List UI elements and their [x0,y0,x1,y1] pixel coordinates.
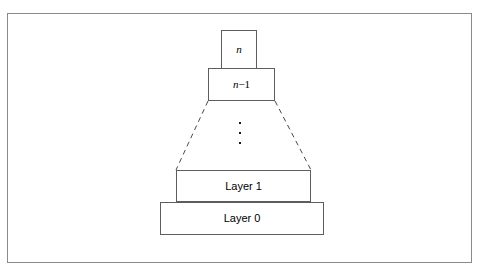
vertical-ellipsis-icon [234,122,246,144]
layer-box-n: n [221,30,257,69]
layer-box-n-minus-1: n−1 [208,68,275,101]
ellipsis-dot [239,132,241,134]
layer-box-n-minus-1-label: n−1 [233,79,250,90]
layer-box-n-label: n [236,44,242,55]
connector-line-right [275,101,311,170]
layer-n-minus-1-number: 1 [245,78,251,90]
layer-box-0: Layer 0 [160,202,324,235]
layer-box-1: Layer 1 [176,170,311,202]
layered-pyramid-diagram: n n−1 Layer 1 Layer 0 [0,0,478,276]
ellipsis-dot [239,122,241,124]
layer-box-1-label: Layer 1 [225,181,262,192]
figure-root: n n−1 Layer 1 Layer 0 [0,0,478,276]
layer-box-0-label: Layer 0 [224,213,261,224]
ellipsis-dot [239,142,241,144]
connector-line-left [176,101,208,170]
